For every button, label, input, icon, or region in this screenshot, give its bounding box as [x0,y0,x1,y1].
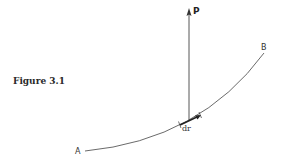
label-a: A [75,147,81,156]
label-dr: dr [182,124,191,133]
figure-3-1-diagram: Figure 3.1 P dr A B [0,0,284,160]
figure-caption: Figure 3.1 [13,76,65,86]
path-curve-a-to-b [85,53,264,151]
label-p: P [193,6,200,16]
label-b: B [261,43,267,52]
